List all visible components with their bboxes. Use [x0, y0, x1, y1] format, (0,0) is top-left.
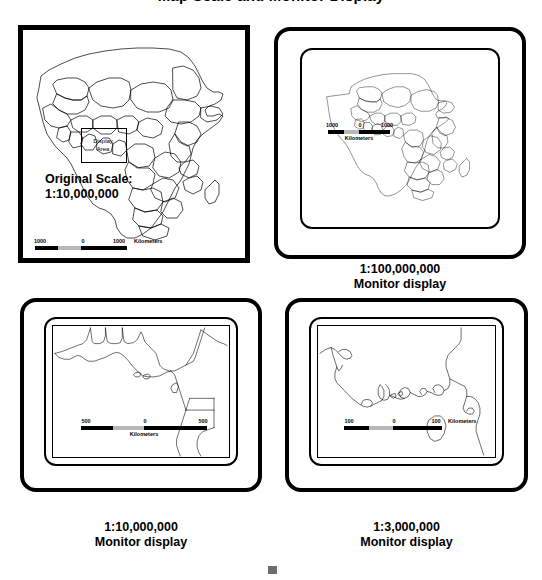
scalebar-segment — [375, 130, 391, 134]
monitor-screen-3m: 100 0 100 Kilometers — [309, 317, 504, 466]
scalebar-monitor-10m: 500 0 500 Kilometers — [81, 418, 209, 437]
scalebar-left-value: 1000 — [34, 238, 46, 244]
scalebar-segment — [81, 426, 113, 430]
scalebar-monitor-3m: 100 0 100 Kilometers — [344, 418, 484, 430]
scalebar-segment — [104, 246, 127, 250]
caption-sub-3m: Monitor display — [285, 535, 528, 550]
scalebar-left-value: 1000 — [326, 122, 338, 128]
scalebar-center-value: 0 — [392, 418, 395, 424]
caption-scale-10m: 1:10,000,000 — [20, 520, 262, 535]
scalebar-right-value: 1000 — [113, 238, 125, 244]
scalebar-numbers: 100 0 100 Kilometers — [344, 418, 484, 426]
original-scale-value: 1:10,000,000 — [45, 187, 133, 202]
panel-monitor-10m: 500 0 500 Kilometers — [20, 298, 262, 492]
scalebar-graphic — [35, 246, 127, 250]
map-canvas-100m: 1000 0 1000 Kilometers — [306, 54, 494, 223]
scalebar-numbers: 1000 0 1000 — [328, 122, 392, 130]
niger-delta-map-3m — [318, 326, 495, 457]
scalebar-original-map: 1000 0 1000 Kilometers — [35, 238, 131, 250]
scalebar-unit-label: Kilometers — [328, 135, 390, 141]
scalebar-segment — [328, 130, 344, 134]
scalebar-monitor-100m: 1000 0 1000 Kilometers — [328, 122, 392, 141]
scalebar-segment — [359, 130, 375, 134]
scalebar-graphic — [328, 130, 390, 134]
scalebar-segment — [35, 246, 58, 250]
scalebar-left-value: 100 — [344, 418, 353, 424]
panel-original-map: Display Area Original Scale: 1:10,000,00… — [18, 25, 250, 263]
scalebar-segment — [393, 426, 418, 430]
scalebar-unit-label: Kilometers — [448, 418, 476, 424]
map-canvas-3m: 100 0 100 Kilometers — [317, 325, 496, 458]
original-scale-block: Original Scale: 1:10,000,000 — [45, 172, 133, 202]
scalebar-segment — [144, 426, 176, 430]
caption-monitor-3m: 1:3,000,000 Monitor display — [285, 520, 528, 550]
scalebar-segment — [344, 426, 369, 430]
scalebar-right-value: 100 — [431, 418, 440, 424]
scalebar-segment — [344, 130, 360, 134]
caption-scale-3m: 1:3,000,000 — [285, 520, 528, 535]
gulf-of-guinea-map-10m — [53, 326, 229, 457]
display-area-label-line1: Display — [81, 138, 125, 145]
map-canvas-10m: 500 0 500 Kilometers — [52, 325, 230, 458]
scalebar-right-value: 500 — [198, 418, 207, 424]
scalebar-unit-label: Kilometers — [81, 431, 207, 437]
original-map-canvas: Display Area Original Scale: 1:10,000,00… — [23, 30, 245, 258]
caption-sub-100m: Monitor display — [274, 277, 526, 292]
caption-scale-100m: 1:100,000,000 — [274, 262, 526, 277]
caption-monitor-10m: 1:10,000,000 Monitor display — [20, 520, 262, 550]
scalebar-segment — [369, 426, 394, 430]
monitor-screen-100m: 1000 0 1000 Kilometers — [300, 48, 500, 229]
caption-sub-10m: Monitor display — [20, 535, 262, 550]
scalebar-numbers: 1000 0 1000 Kilometers — [35, 238, 131, 246]
figure-title: Map Scale and Monitor Display — [0, 0, 542, 4]
panel-monitor-3m: 100 0 100 Kilometers — [285, 298, 528, 492]
scalebar-segment — [113, 426, 145, 430]
display-area-label-line2: Area — [81, 146, 125, 153]
scalebar-segment — [176, 426, 208, 430]
scalebar-center-value: 0 — [143, 418, 146, 424]
scalebar-center-value: 0 — [81, 238, 84, 244]
scalebar-center-value: 0 — [358, 122, 361, 128]
panel-monitor-100m: 1000 0 1000 Kilometers — [274, 27, 526, 259]
scalebar-graphic — [344, 426, 442, 430]
monitor-screen-10m: 500 0 500 Kilometers — [44, 317, 238, 466]
scalebar-graphic — [81, 426, 207, 430]
scalebar-right-value: 1000 — [381, 122, 393, 128]
scalebar-left-value: 500 — [81, 418, 90, 424]
scalebar-numbers: 500 0 500 — [81, 418, 209, 426]
caption-monitor-100m: 1:100,000,000 Monitor display — [274, 262, 526, 292]
scalebar-segment — [58, 246, 81, 250]
page-bottom-mark — [268, 566, 277, 574]
africa-map-original — [23, 30, 245, 258]
original-scale-label: Original Scale: — [45, 172, 133, 187]
scalebar-segment — [81, 246, 104, 250]
scalebar-segment — [418, 426, 443, 430]
scalebar-unit-label: Kilometers — [134, 238, 162, 244]
